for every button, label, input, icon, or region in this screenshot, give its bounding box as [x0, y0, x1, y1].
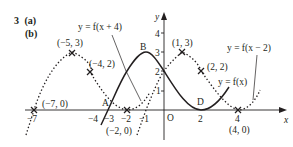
point-label-4-0: (4, 0) — [229, 125, 250, 136]
x-tick-2: 2 — [198, 114, 203, 124]
curve-label-f: y = f(x) — [218, 77, 247, 88]
x-tick-neg4: −4 — [88, 114, 98, 124]
x-tick-neg1: −1 — [139, 114, 149, 124]
y-tick-1: 1 — [156, 86, 161, 96]
x-tick-neg7: −7 — [27, 114, 37, 124]
y-axis-label: y — [154, 12, 160, 22]
y-axis-arrow-icon — [161, 12, 167, 20]
point-label-neg4-2: (−4, 2) — [89, 59, 115, 70]
y-tick-3: 3 — [155, 48, 160, 58]
x-axis-label: x — [283, 115, 289, 125]
origin-label: O — [167, 113, 174, 123]
point-D-label: D — [197, 97, 204, 107]
point-label-neg5-3: (−5, 3) — [57, 38, 83, 49]
cross-icon — [87, 69, 93, 75]
point-label-2-2: (2, 2) — [207, 62, 228, 73]
point-label-neg7-0: (−7, 0) — [42, 99, 68, 110]
leader-f-minus-2 — [253, 55, 257, 100]
point-label-neg2-0: (−2, 0) — [106, 126, 132, 137]
point-label-1-3: (1, 3) — [172, 38, 193, 49]
point-B-label: B — [140, 42, 146, 52]
cross-icon — [179, 49, 185, 55]
point-A-label: A — [102, 98, 109, 108]
y-tick-4: 4 — [155, 29, 160, 39]
curve-label-f-plus-4: y = f(x + 4) — [78, 22, 122, 33]
graph: y x O 4 3 2 1 −7 −4 −3 −2 −1 2 4 (−5, 3)… — [0, 0, 293, 147]
x-axis-arrow-icon — [279, 107, 287, 113]
x-tick-neg2: −2 — [121, 114, 131, 124]
cross-icon — [198, 68, 204, 74]
curve-label-f-minus-2: y = f(x − 2) — [227, 43, 271, 54]
y-tick-2: 2 — [155, 67, 160, 77]
x-tick-4: 4 — [235, 114, 240, 124]
